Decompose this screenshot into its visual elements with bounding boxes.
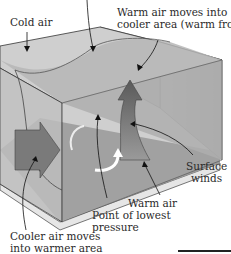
label-warm-front-line1: Warm air moves into xyxy=(117,6,231,18)
label-cold-front-line2: into warmer area xyxy=(10,242,103,254)
label-warm-front-line2: cooler area (warm front). xyxy=(117,18,231,30)
label-warm-air: Warm air xyxy=(128,197,177,209)
label-cold-air: Cold air xyxy=(10,16,52,28)
label-lowest-pressure-line2: pressure xyxy=(92,221,171,233)
label-cold-front: Cooler air moves into warmer area xyxy=(10,230,103,254)
label-warm-front: Warm air moves into cooler area (warm fr… xyxy=(117,6,231,30)
label-lowest-pressure: Point of lowest pressure xyxy=(92,209,171,233)
scale-bar xyxy=(178,250,231,252)
label-surface-winds-line1: Surface xyxy=(186,160,227,172)
label-surface-winds: Surface winds xyxy=(186,160,227,184)
label-surface-winds-line2: winds xyxy=(186,172,227,184)
label-lowest-pressure-line1: Point of lowest xyxy=(92,209,171,221)
label-cold-front-line1: Cooler air moves xyxy=(10,230,103,242)
